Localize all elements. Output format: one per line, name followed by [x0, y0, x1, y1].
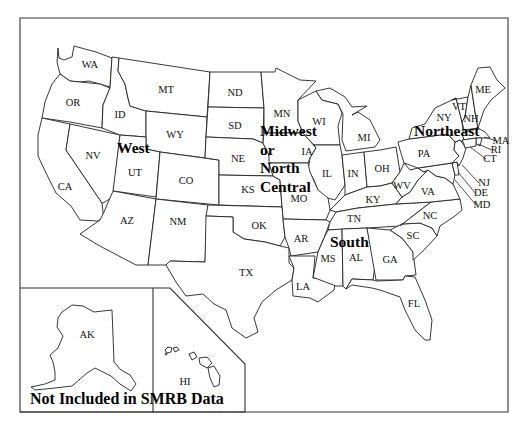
state-label-mi: MI: [358, 132, 371, 143]
state-hi-island-4[interactable]: [199, 357, 212, 368]
state-label-wy: WY: [166, 129, 184, 140]
state-label-sd: SD: [228, 120, 242, 131]
state-label-az: AZ: [120, 215, 134, 226]
state-label-co: CO: [179, 175, 194, 186]
noncontiguous-states: [31, 305, 220, 391]
state-label-ca: CA: [58, 181, 73, 192]
state-label-il: IL: [322, 168, 332, 179]
region-label-northeast: Northeast: [414, 122, 480, 139]
state-label-al: AL: [349, 252, 363, 263]
region-label-midwest: Midwest: [260, 122, 318, 139]
state-label-fl: FL: [408, 298, 420, 309]
state-label-ks: KS: [241, 184, 255, 195]
state-label-ky: KY: [365, 194, 381, 205]
state-label-ct: CT: [483, 153, 497, 164]
region-label-south: South: [330, 233, 369, 250]
state-label-ut: UT: [128, 167, 143, 178]
state-label-ok: OK: [251, 220, 267, 231]
state-label-or: OR: [66, 97, 81, 108]
state-label-nc: NC: [423, 210, 438, 221]
region-label-west: West: [117, 139, 151, 156]
state-hi-island-6[interactable]: [165, 353, 167, 355]
us-regions-map: WAORCANVIDMTWYUTCOAZNMNDSDNEKSOKTXMNWIMI…: [0, 0, 530, 428]
state-label-ar: AR: [294, 233, 309, 244]
region-label-midwest-north: North: [260, 159, 300, 176]
state-label-me: ME: [475, 84, 491, 95]
state-ak[interactable]: [31, 305, 136, 391]
state-label-tx: TX: [239, 267, 253, 278]
state-label-wv: WV: [393, 180, 411, 191]
state-label-ia: IA: [301, 146, 312, 157]
state-label-la: LA: [296, 281, 310, 292]
state-label-mt: MT: [158, 84, 174, 95]
exclusion-note: Not Included in SMRB Data: [30, 390, 224, 407]
state-label-de: DE: [474, 187, 488, 198]
state-hi-island-1[interactable]: [165, 347, 172, 353]
state-label-md: MD: [474, 199, 491, 210]
state-label-nm: NM: [170, 216, 188, 227]
state-label-tn: TN: [347, 213, 361, 224]
state-label-vt: VT: [452, 101, 467, 112]
state-label-ms: MS: [320, 253, 335, 264]
state-label-wa: WA: [82, 59, 99, 70]
state-label-oh: OH: [374, 163, 390, 174]
state-label-hi: HI: [179, 376, 191, 387]
region-label-midwest-or: or: [260, 141, 275, 158]
state-hi-island-2[interactable]: [173, 347, 179, 352]
state-hi-island-5[interactable]: [208, 366, 220, 387]
state-label-in: IN: [347, 168, 358, 179]
state-label-ak: AK: [79, 329, 95, 340]
state-label-sc: SC: [407, 230, 420, 241]
state-label-mn: MN: [274, 108, 291, 119]
state-label-ne: NE: [231, 153, 245, 164]
state-label-nd: ND: [227, 87, 243, 98]
region-label-midwest-central: Central: [260, 178, 311, 195]
state-hi-island-3[interactable]: [189, 352, 197, 360]
state-label-ga: GA: [382, 254, 398, 265]
state-label-nv: NV: [85, 150, 101, 161]
state-nm[interactable]: [148, 199, 208, 265]
state-label-va: VA: [421, 186, 435, 197]
state-label-pa: PA: [418, 148, 431, 159]
state-label-id: ID: [114, 109, 125, 120]
state-label-mo: MO: [291, 193, 308, 204]
